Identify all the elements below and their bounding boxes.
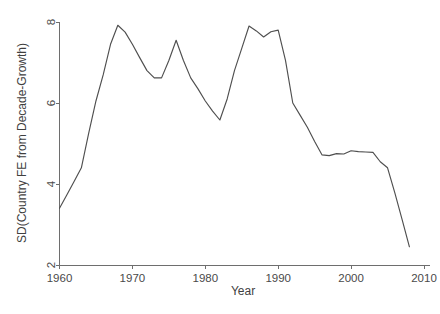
y-tick-label: 4 [45,180,57,187]
y-tick-label: 6 [45,100,57,106]
x-tick-label: 2010 [411,272,437,284]
x-tick-label: 1960 [47,272,73,284]
x-tick-label: 1970 [120,272,146,284]
chart-background [0,0,440,314]
chart-figure: 2468 SD(Country FE from Decade-Growth) 1… [0,0,440,314]
x-axis-title: Year [231,284,255,298]
y-tick-label: 2 [45,262,57,268]
y-axis-title: SD(Country FE from Decade-Growth) [15,43,29,243]
line-chart-svg: 2468 SD(Country FE from Decade-Growth) 1… [0,0,440,314]
x-tick-label: 2000 [338,272,364,284]
x-tick-label: 1990 [265,272,291,284]
y-tick-label: 8 [45,19,57,25]
x-tick-label: 1980 [193,272,219,284]
